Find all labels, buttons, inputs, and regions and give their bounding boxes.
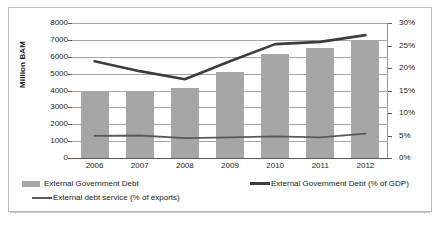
chart-legend: External Government DebtExternal Governm… [10,177,430,209]
x-axis-label-2010: 2010 [253,161,298,170]
y-axis-tick-label: 2000 [26,120,68,128]
line-series-layer [72,23,388,158]
x-axis-label-2009: 2009 [207,161,252,170]
y2-axis-tick-label: 10% [399,109,415,117]
legend-label: External Government Debt [44,179,139,188]
y-axis-tick-mark [68,74,72,75]
y-axis-tick-mark [68,141,72,142]
y-axis-tick-mark [68,124,72,125]
y-axis-tick-label: 5000 [26,70,68,78]
y2-axis-tick-label: 0% [399,154,411,162]
y2-axis-tick-label: 15% [399,87,415,95]
y2-axis-tick-mark [388,46,392,47]
y-axis-tick-label: 0 [26,154,68,162]
legend-marker-bar-swatch [22,181,40,187]
x-axis-line [72,158,388,159]
y2-axis-tick-label: 25% [399,42,415,50]
y-axis-tick-mark [68,107,72,108]
y2-axis-tick-mark [388,68,392,69]
x-axis-label-2007: 2007 [117,161,162,170]
legend-label: External debt service (% of exports) [53,193,180,202]
x-axis-label-2012: 2012 [343,161,388,170]
y2-axis-tick-label: 5% [399,132,411,140]
legend-item-2[interactable]: External Government Debt (% of GDP) [250,179,409,188]
line-series-2 [95,134,366,139]
y2-axis-tick-mark [388,136,392,137]
chart-container: Million BAM 0100020003000400050006000700… [0,0,442,226]
plot-area [72,23,388,158]
legend-item-3[interactable]: External debt service (% of exports) [32,193,180,202]
y-axis-tick-mark [68,158,72,159]
y-axis-tick-mark [68,91,72,92]
x-axis-label-2006: 2006 [72,161,117,170]
x-axis-label-2011: 2011 [298,161,343,170]
y-axis-left-ticks: 010002000300040005000600070008000 [22,23,68,158]
x-axis-label-2008: 2008 [162,161,207,170]
legend-divider [10,212,430,213]
y2-axis-tick-mark [388,91,392,92]
line-series-1 [95,35,366,79]
legend-label: External Government Debt (% of GDP) [271,179,409,188]
x-axis-labels: 2006200720082009201020112012 [72,161,388,175]
y2-axis-tick-mark [388,113,392,114]
legend-item-1[interactable]: External Government Debt [22,179,139,188]
y-axis-tick-label: 1000 [26,137,68,145]
y2-axis-tick-label: 30% [399,19,415,27]
legend-marker-thick-line-swatch [250,182,270,185]
y-axis-tick-label: 4000 [26,87,68,95]
y2-axis-tick-label: 20% [399,64,415,72]
y-axis-right-ticks: 0%5%10%15%20%25%30% [390,23,430,158]
y-axis-tick-label: 7000 [26,36,68,44]
y-axis-tick-mark [68,40,72,41]
y-axis-tick-label: 6000 [26,53,68,61]
legend-marker-thin-line-swatch [32,197,52,199]
y-axis-tick-mark [68,23,72,24]
y2-axis-tick-mark [388,158,392,159]
y2-axis-tick-mark [388,23,392,24]
y-axis-tick-mark [68,57,72,58]
y-axis-tick-label: 3000 [26,103,68,111]
y-axis-tick-label: 8000 [26,19,68,27]
